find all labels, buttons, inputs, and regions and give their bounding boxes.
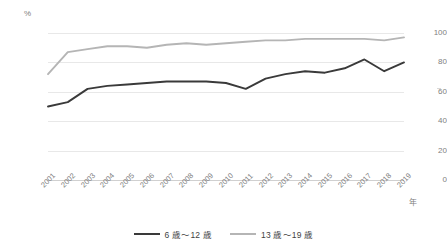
legend-item-6-12[interactable]: 6 歳～12 歳	[134, 228, 213, 240]
y-tick-100: 100	[421, 29, 447, 37]
legend-item-13-19[interactable]: 13 歳～19 歳	[230, 228, 313, 240]
y-axis-unit: %	[24, 9, 31, 18]
x-axis-ticks: 2001200220032004200520062007200820092010…	[0, 183, 447, 223]
series-layer	[48, 33, 404, 180]
series-line-13-19	[48, 37, 404, 74]
x-tick-2001: 2001	[39, 171, 57, 189]
plot-area	[48, 33, 404, 180]
chart-legend: 6 歳～12 歳 13 歳～19 歳	[0, 228, 447, 240]
series-line-6-12	[48, 59, 404, 106]
y-tick-60: 60	[421, 88, 447, 96]
y-tick-80: 80	[421, 58, 447, 66]
x-axis-unit: 年	[409, 196, 417, 207]
right-edge-mark	[437, 88, 441, 89]
y-tick-40: 40	[421, 117, 447, 125]
legend-swatch-13-19	[230, 233, 256, 235]
legend-label-13-19: 13 歳～19 歳	[261, 228, 313, 240]
y-tick-20: 20	[421, 147, 447, 155]
legend-swatch-6-12	[134, 233, 160, 235]
legend-label-6-12: 6 歳～12 歳	[165, 228, 213, 240]
line-chart: % 100 80 60 40 20 0 20012002200320042005…	[0, 0, 447, 249]
